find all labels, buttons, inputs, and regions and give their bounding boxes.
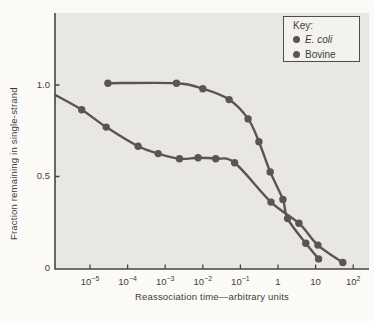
data-point	[302, 240, 309, 247]
data-point	[284, 215, 291, 222]
data-point	[103, 123, 110, 130]
legend-item-bovine: Bovine	[293, 47, 359, 61]
legend-item-label: Bovine	[305, 49, 336, 60]
data-point	[267, 168, 274, 175]
data-point	[279, 196, 286, 203]
y-tick-label: 1.0	[24, 79, 50, 90]
legend-title: Key:	[293, 20, 359, 31]
data-point	[194, 154, 201, 161]
data-point	[173, 80, 180, 87]
data-point	[78, 106, 85, 113]
data-point	[104, 80, 111, 87]
legend-item-label: E. coli	[305, 34, 332, 45]
series-marker-icon	[293, 36, 300, 43]
data-point	[225, 96, 232, 103]
y-tick-label: 0	[24, 262, 50, 273]
data-point	[339, 259, 346, 266]
data-point	[267, 198, 274, 205]
data-point	[244, 115, 251, 122]
series-marker-icon	[293, 51, 300, 58]
data-point	[134, 143, 141, 150]
data-point	[176, 155, 183, 162]
y-tick-label: 0.5	[24, 170, 50, 181]
data-point	[199, 85, 206, 92]
data-point	[314, 241, 321, 248]
x-axis-title: Reassociation time—arbitrary units	[55, 291, 369, 302]
cot-curve-figure: Fraction remaining in single-strand Reas…	[0, 0, 374, 321]
legend-item-ecoli: E. coli	[293, 32, 359, 46]
data-point	[155, 150, 162, 157]
chart-legend: Key: E. coli Bovine	[283, 16, 360, 62]
data-point	[295, 220, 302, 227]
data-point	[212, 155, 219, 162]
data-point	[231, 159, 238, 166]
y-axis-title: Fraction remaining in single-strand	[6, 58, 20, 270]
data-point	[255, 138, 262, 145]
data-point	[315, 255, 322, 262]
